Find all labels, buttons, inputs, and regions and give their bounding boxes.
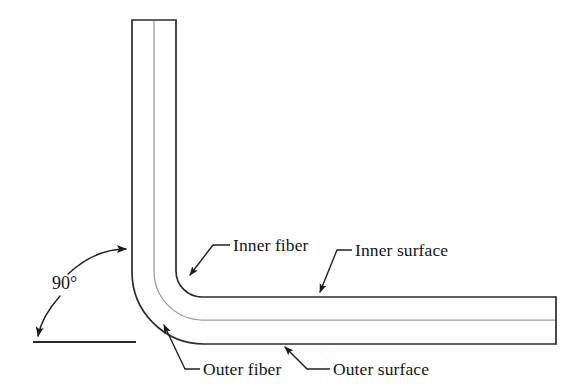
outer-fiber-label: Outer fiber [203,359,281,379]
figure-canvas: 90° Inner fiber Inner surface Outer fibe… [0,0,587,387]
angle-annotation: 90° [33,249,136,342]
angle-arc-lower [38,296,60,336]
pipe-body [131,20,556,345]
inner-surface-callout: Inner surface [320,240,448,292]
outer-fiber-pointer [164,325,185,369]
outer-fiber-callout: Outer fiber [164,325,281,379]
pipe-bend-diagram: 90° Inner fiber Inner surface Outer fibe… [0,0,587,387]
inner-fiber-callout: Inner fiber [190,235,309,275]
angle-label: 90° [52,273,77,293]
outer-surface-callout: Outer surface [285,347,429,379]
inner-fiber-pointer [190,245,213,275]
inner-surface-label: Inner surface [355,240,448,260]
centerline-fiber [154,20,556,320]
angle-arc-upper [68,249,126,274]
inner-surface-pointer [320,250,337,292]
outer-surface-pointer [285,347,307,369]
outer-surface-label: Outer surface [333,359,429,379]
inner-fiber-label: Inner fiber [233,235,309,255]
